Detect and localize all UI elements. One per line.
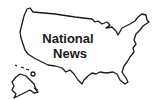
logo-text-line2: News [2, 47, 138, 61]
hawaii-islands [15, 65, 29, 70]
alaska-panhandle [34, 88, 38, 90]
hawaii-big-island [31, 72, 35, 76]
logo-text-line1: National [0, 32, 136, 46]
alaska-outline [12, 74, 38, 98]
